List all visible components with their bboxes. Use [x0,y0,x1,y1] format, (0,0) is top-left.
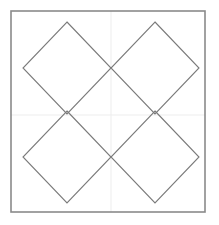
figure-container [0,0,219,225]
figure-background [0,0,219,225]
geometric-figure [0,0,219,225]
